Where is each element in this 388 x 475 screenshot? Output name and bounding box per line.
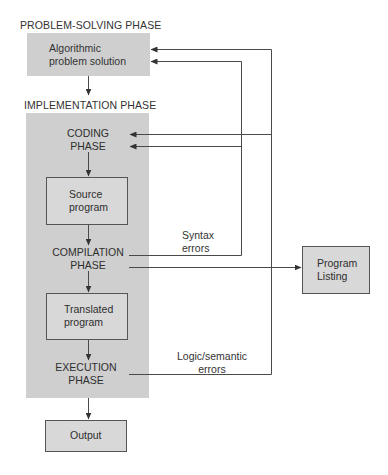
- connector-lines: [0, 0, 388, 475]
- syntax-errors-feedback-arrow: [129, 62, 242, 256]
- logic-errors-feedback-arrow: [129, 50, 272, 375]
